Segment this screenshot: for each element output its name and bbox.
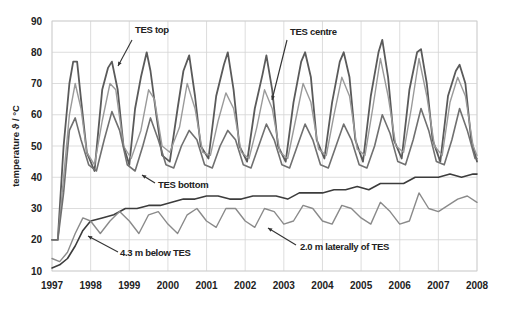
x-tick-label: 2008 — [466, 280, 489, 291]
x-tick-label: 2001 — [195, 280, 218, 291]
x-tick-label: 2005 — [350, 280, 373, 291]
annotation-label: TES top — [135, 24, 169, 35]
y-axis-tick-labels: 102030405060708090 — [31, 16, 43, 277]
x-tick-label: 2002 — [234, 280, 257, 291]
annotation-pointer — [118, 40, 132, 66]
x-tick-label: 2006 — [389, 280, 412, 291]
annotation-label: 2.0 m laterally of TES — [300, 241, 389, 252]
grid — [52, 21, 477, 271]
series-tes-bottom — [52, 109, 477, 240]
x-axis-tick-labels: 1997199819992000200120022003200420052006… — [41, 280, 489, 291]
annotation-label: 4.3 m below TES — [120, 247, 190, 258]
y-tick-label: 20 — [31, 234, 43, 245]
data-series — [52, 40, 477, 268]
x-tick-label: 2007 — [427, 280, 450, 291]
y-tick-label: 90 — [31, 16, 43, 27]
y-tick-label: 10 — [31, 266, 43, 277]
y-tick-label: 40 — [31, 172, 43, 183]
annotation-label: TES bottom — [158, 179, 208, 190]
annotation-label: TES centre — [290, 26, 337, 37]
y-axis-title: temperature ϑ / °C — [10, 105, 21, 187]
x-tick-label: 1997 — [41, 280, 64, 291]
series-tes-centre — [52, 59, 477, 240]
x-tick-label: 2004 — [311, 280, 334, 291]
x-tick-label: 2000 — [157, 280, 180, 291]
annotation-pointer — [268, 228, 296, 245]
series-4-3-m-below-tes — [52, 174, 477, 268]
x-tick-label: 1998 — [80, 280, 103, 291]
annotation-pointer — [272, 40, 287, 100]
annotation-pointer — [88, 236, 118, 252]
y-tick-label: 70 — [31, 78, 43, 89]
y-tick-label: 30 — [31, 203, 43, 214]
x-tick-label: 2003 — [273, 280, 296, 291]
y-tick-label: 50 — [31, 141, 43, 152]
x-tick-label: 1999 — [118, 280, 141, 291]
temperature-chart: 102030405060708090 199719981999200020012… — [0, 0, 508, 309]
y-tick-label: 60 — [31, 109, 43, 120]
y-tick-label: 80 — [31, 47, 43, 58]
